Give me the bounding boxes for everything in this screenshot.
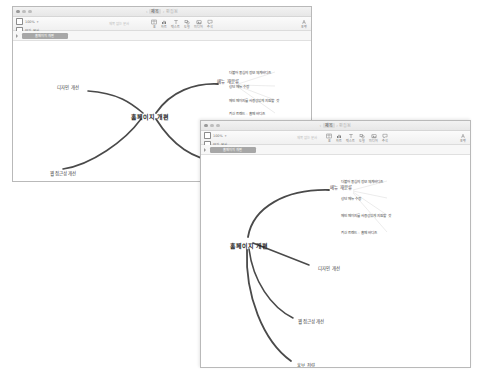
toolbar-tools-back: 표 차트 텍스트 [151,19,213,30]
tool-label: 미디어 [369,139,378,143]
text-icon [348,133,354,139]
chart-icon [336,133,342,139]
format-label: 포맷 [301,25,307,29]
media-icon [196,19,202,25]
mindmap-leaf-back[interactable]: 상단 메뉴 수정 [229,84,249,89]
zoom-icon [16,18,23,25]
mindmap-branch-design-back[interactable]: 디자인 개선 [57,84,78,90]
comment-icon [382,133,388,139]
mindmap-leaf-front[interactable]: 최신 트렌드 - 홈페 바디즈 [341,230,377,235]
tool-label: 차트 [336,139,342,143]
chevron-right-icon[interactable] [16,34,18,38]
formatbar-front[interactable]: 홈페이지 개편 [201,145,470,155]
mindmap-leaf-front[interactable]: 더불어 중심의 정보 체계바디즈 [341,179,383,184]
tool-label: 텍스트 [171,25,180,29]
tool-table-back[interactable]: 표 [151,19,157,30]
shape-icon [184,19,190,25]
selected-object-pill-front[interactable]: 홈페이지 개편 [210,147,256,153]
tool-label: 미디어 [194,25,203,29]
mindmap-branch-design-front[interactable]: 디자인 개선 [318,265,339,271]
mindmap-leaf-back[interactable]: 메인 페이지를 사용성있게 지원할 것 [229,98,279,103]
tool-label: 도형 [359,139,365,143]
toolbar-format-button-front[interactable]: 포맷 [460,133,466,144]
chart-icon [161,19,167,25]
tool-label: 주석 [382,139,388,143]
formatbar-back[interactable]: 홈페이지 개편 [13,31,311,41]
tool-text-front[interactable]: 텍스트 [346,133,355,144]
tool-comment-back[interactable]: 주석 [207,19,213,30]
format-icon [301,19,307,25]
mindmap-leaf-front[interactable]: 상단 메뉴 수정 [341,196,361,201]
tool-media-back[interactable]: 미디어 [194,19,203,30]
tool-table-front[interactable]: 표 [326,133,332,144]
chevron-down-icon: ▾ [37,20,39,24]
window-title-front: ‹ 제목 › 편집됨 [201,122,470,128]
mindmap-leaf-back[interactable]: 최신 트렌드 - 홈페 바디즈 [229,111,265,116]
tool-label: 차트 [161,25,167,29]
screen: ‹ 제목 › 편집됨 100% ▾ 보기 문서 제목 없는 문서 [0,0,483,380]
tool-label: 도형 [184,25,190,29]
tool-chart-back[interactable]: 차트 [161,19,167,30]
document-window-front[interactable]: ‹ 제목 › 편집됨 100% ▾ 보기 문서 제목 없는 문서 [200,120,471,368]
zoom-value-label: 100% [25,20,35,24]
toolbar-back[interactable]: 100% ▾ 보기 문서 제목 없는 문서 표 [13,17,311,31]
tool-media-front[interactable]: 미디어 [369,133,378,144]
tool-shape-back[interactable]: 도형 [184,19,190,30]
toolbar-format-button-back[interactable]: 포맷 [301,19,307,30]
table-icon [151,19,157,25]
table-icon [326,133,332,139]
tool-label: 텍스트 [346,139,355,143]
tool-chart-front[interactable]: 차트 [336,133,342,144]
zoom-control-back[interactable]: 100% ▾ [16,18,39,25]
tool-label: 표 [153,25,156,29]
chevron-down-icon: ▾ [225,134,227,138]
titlebar-back[interactable]: ‹ 제목 › 편집됨 [13,7,311,17]
text-icon [173,19,179,25]
mindmap-leaf-front[interactable]: 메인 페이지를 사용성있게 지원할 것 [341,213,391,218]
selected-object-pill-back[interactable]: 홈페이지 개편 [22,33,68,39]
titlebar-front[interactable]: ‹ 제목 › 편집됨 [201,121,470,131]
toolbar-tools-front: 표 차트 텍스트 [326,133,388,144]
mindmap-root-node-front[interactable]: 홈페이지 개편 [230,241,268,250]
format-icon [460,133,466,139]
format-label: 포맷 [460,139,466,143]
toolbar-front[interactable]: 100% ▾ 보기 문서 제목 없는 문서 표 [201,131,470,145]
tool-text-back[interactable]: 텍스트 [171,19,180,30]
mindmap-root-node-back[interactable]: 홈페이지 개편 [131,112,169,121]
mindmap-branch-access-back[interactable]: 웹 접근성 개선 [50,170,77,176]
mindmap-branch-access-front[interactable]: 웹 접근성 개선 [298,318,325,324]
chevron-right-icon[interactable] [204,148,206,152]
tool-label: 주석 [207,25,213,29]
zoom-value-label: 100% [213,134,223,138]
window-title-back: ‹ 제목 › 편집됨 [13,8,311,14]
toolbar-center-hint-back: 제목 없는 문서 [109,21,129,26]
mindmap-branch-promo-front[interactable]: 홍보 전략 [297,362,314,368]
zoom-icon [204,132,211,139]
mindmap-branch-menu-front[interactable]: 메뉴 재분류 [330,184,351,190]
mindmap-leaf-back[interactable]: 더불어 중심의 정보 체계바디즈 [229,70,271,75]
media-icon [371,133,377,139]
zoom-control-front[interactable]: 100% ▾ [204,132,227,139]
tool-shape-front[interactable]: 도형 [359,133,365,144]
tool-label: 표 [328,139,331,143]
shape-icon [359,133,365,139]
tool-comment-front[interactable]: 주석 [382,133,388,144]
toolbar-center-hint-front: 제목 없는 문서 [297,135,317,140]
comment-icon [207,19,213,25]
mindmap-canvas-front[interactable]: 홈페이지 개편 디자인 개선 메뉴 재분류 웹 접근성 개선 홍보 전략 더불어… [201,155,470,368]
